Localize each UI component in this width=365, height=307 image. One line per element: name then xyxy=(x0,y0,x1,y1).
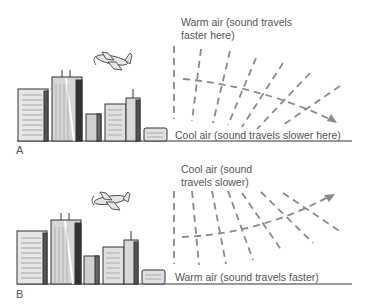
wavefronts xyxy=(174,191,341,265)
city-skyline-icon xyxy=(17,213,165,284)
airplane-icon xyxy=(94,52,132,70)
sound-ray xyxy=(182,196,330,237)
airplane-icon xyxy=(92,192,130,210)
bottom-label-b: Warm air (sound travels faster) xyxy=(175,271,319,284)
panel-a: Warm air (sound travels faster here) Coo… xyxy=(0,0,365,155)
city-skyline-icon xyxy=(18,70,167,141)
bottom-label-a: Cool air (sound travels slower here) xyxy=(175,129,341,142)
sound-ray xyxy=(183,79,334,121)
wavefronts xyxy=(174,46,340,129)
top-label-b: Cool air (sound travels slower) xyxy=(181,163,252,189)
arrow-icon xyxy=(327,114,337,123)
panel-letter-b: B xyxy=(16,288,23,300)
top-label-a: Warm air (sound travels faster here) xyxy=(181,16,292,42)
panel-b: Cool air (sound travels slower) Warm air… xyxy=(0,150,365,307)
